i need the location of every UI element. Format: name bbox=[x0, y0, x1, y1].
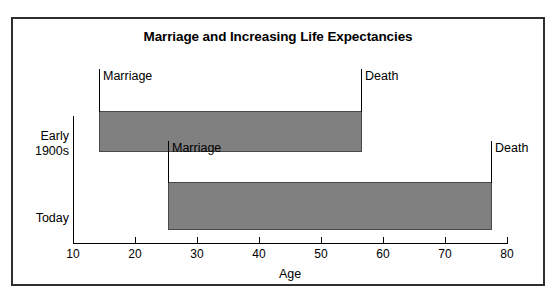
x-tick-mark bbox=[321, 237, 322, 244]
figure-frame: Marriage and Increasing Life Expectancie… bbox=[11, 17, 545, 286]
y-axis-line bbox=[73, 116, 74, 244]
x-tick-label: 40 bbox=[252, 247, 265, 261]
x-tick-mark bbox=[73, 237, 74, 244]
leader-line-early-marriage bbox=[99, 69, 100, 112]
leader-line-today-death bbox=[491, 141, 492, 183]
annotation-today-marriage: Marriage bbox=[172, 141, 221, 155]
x-tick-label: 50 bbox=[314, 247, 327, 261]
bar-early-1900s bbox=[99, 111, 362, 152]
x-tick-mark bbox=[383, 237, 384, 244]
x-tick-mark bbox=[259, 237, 260, 244]
x-tick-mark bbox=[197, 237, 198, 244]
leader-line-today-marriage bbox=[168, 141, 169, 183]
x-tick-mark bbox=[445, 237, 446, 244]
x-tick-mark bbox=[135, 237, 136, 244]
annotation-early-marriage: Marriage bbox=[103, 69, 152, 83]
annotation-today-death: Death bbox=[495, 141, 528, 155]
x-tick-label: 70 bbox=[438, 247, 451, 261]
plot-area: 10 20 30 40 50 60 70 80 Age Early 1900s … bbox=[13, 19, 547, 288]
y-category-label-early-1900s: Early 1900s bbox=[19, 129, 69, 158]
x-tick-label: 10 bbox=[66, 247, 79, 261]
x-axis-title: Age bbox=[73, 267, 507, 281]
bar-today bbox=[168, 182, 492, 230]
annotation-early-death: Death bbox=[365, 69, 398, 83]
x-tick-label: 20 bbox=[128, 247, 141, 261]
y-category-label-today: Today bbox=[19, 211, 69, 226]
x-tick-label: 30 bbox=[190, 247, 203, 261]
leader-line-early-death bbox=[361, 69, 362, 112]
x-tick-label: 80 bbox=[500, 247, 513, 261]
x-tick-mark bbox=[507, 237, 508, 244]
x-tick-label: 60 bbox=[376, 247, 389, 261]
x-axis-line bbox=[73, 243, 507, 244]
